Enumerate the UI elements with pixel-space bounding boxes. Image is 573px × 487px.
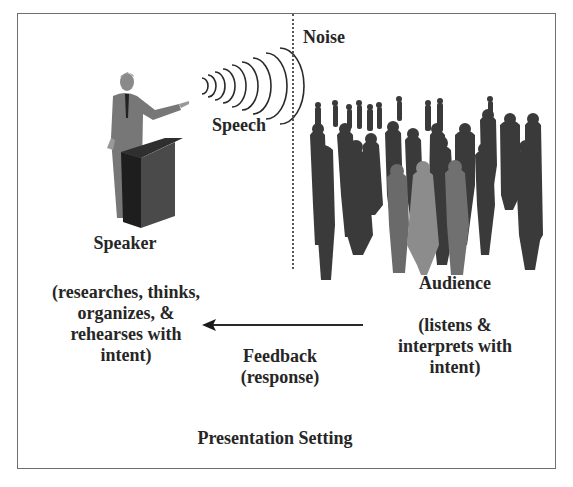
noise-divider-line	[292, 14, 294, 269]
feedback-label: Feedback	[225, 346, 335, 367]
sound-waves-icon	[200, 40, 320, 120]
speaker-label: Speaker	[60, 233, 190, 254]
audience-description-line: intent)	[385, 357, 525, 378]
audience-label: Audience	[395, 273, 515, 294]
audience-description-line: interprets with	[385, 336, 525, 357]
speaker-description-line: organizes, &	[38, 303, 214, 324]
feedback-sublabel: (response)	[225, 367, 335, 388]
speaker-description-line: (researches, thinks,	[38, 282, 214, 303]
speech-label: Speech	[212, 115, 266, 136]
noise-label: Noise	[303, 27, 345, 48]
crowd-silhouette-icon	[305, 95, 550, 265]
speaker-description-line: intent)	[38, 345, 214, 366]
arrow-left-icon	[200, 316, 365, 334]
speaker-description-line: rehearses with	[38, 324, 214, 345]
diagram-title: Presentation Setting	[180, 428, 370, 449]
speaker-at-podium-icon	[95, 68, 195, 228]
audience-description-line: (listens &	[385, 315, 525, 336]
